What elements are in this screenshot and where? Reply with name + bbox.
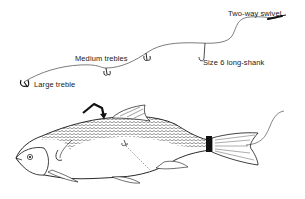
label-medium-trebles: Medium trebles	[75, 54, 128, 63]
label-size-6-long-shank: Size 6 long-shank	[203, 58, 264, 67]
label-large-treble: Large treble	[34, 80, 75, 89]
label-two-way-swivel: Two-way swivel	[228, 9, 282, 18]
diagram-drawing	[0, 0, 305, 199]
trace-line	[24, 17, 276, 82]
bait-fish-illustration	[16, 105, 284, 183]
arrow-icon	[83, 104, 107, 119]
large-treble-icon	[21, 80, 29, 87]
medium-treble-icon	[104, 68, 110, 75]
fishing-rig-diagram: Two-way swivel Size 6 long-shank Medium …	[0, 0, 305, 199]
